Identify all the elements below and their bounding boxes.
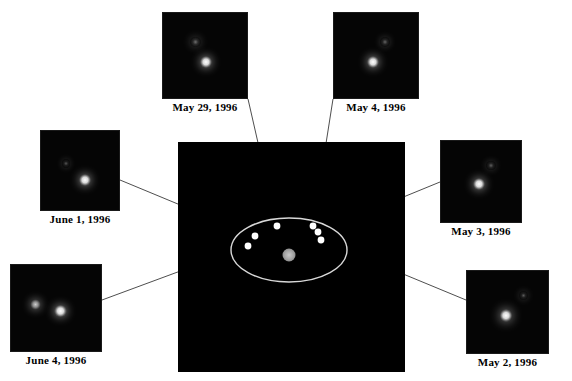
marker-may-2[interactable] xyxy=(318,237,325,244)
observation-panel-may-2-1996[interactable]: May 2, 1996 xyxy=(466,270,549,372)
observation-panel-may-3-1996[interactable]: May 3, 1996 xyxy=(440,140,522,241)
panel-caption-may-29-1996: May 29, 1996 xyxy=(172,101,237,113)
star-primary-june-4-1996 xyxy=(54,305,66,317)
panel-caption-may-4-1996: May 4, 1996 xyxy=(346,101,405,113)
panel-caption-june-4-1996: June 4, 1996 xyxy=(26,354,87,366)
marker-may-29[interactable] xyxy=(274,223,281,230)
panel-caption-may-3-1996: May 3, 1996 xyxy=(451,225,510,237)
panel-caption-may-2-1996: May 2, 1996 xyxy=(478,356,537,368)
observation-panel-may-29-1996[interactable]: May 29, 1996 xyxy=(162,12,248,117)
star-primary-may-4-1996 xyxy=(367,56,379,68)
star-companion-june-4-1996 xyxy=(30,299,41,310)
observation-image-may-29-1996[interactable] xyxy=(162,12,248,99)
observation-image-june-1-1996[interactable] xyxy=(40,130,120,211)
observation-panel-may-4-1996[interactable]: May 4, 1996 xyxy=(333,12,419,117)
observation-image-may-2-1996[interactable] xyxy=(466,270,549,354)
star-primary-june-1-1996 xyxy=(79,174,91,186)
star-companion-june-1-1996 xyxy=(62,159,70,167)
marker-may-3[interactable] xyxy=(315,229,322,236)
star-primary-may-2-1996 xyxy=(500,309,513,322)
star-companion-may-4-1996 xyxy=(380,37,390,47)
star-companion-may-2-1996 xyxy=(519,291,528,300)
observation-image-may-4-1996[interactable] xyxy=(333,12,419,99)
star-primary-may-29-1996 xyxy=(200,56,212,68)
observation-panel-june-1-1996[interactable]: June 1, 1996 xyxy=(40,130,120,229)
figure-canvas: May 29, 1996May 4, 1996June 1, 1996May 3… xyxy=(0,0,572,381)
observation-image-may-3-1996[interactable] xyxy=(440,140,522,223)
star-primary-may-3-1996 xyxy=(473,178,485,190)
star-companion-may-29-1996 xyxy=(190,37,200,47)
central-body xyxy=(283,249,296,262)
marker-june-1[interactable] xyxy=(252,233,259,240)
observation-panel-june-4-1996[interactable]: June 4, 1996 xyxy=(10,264,102,370)
observation-image-june-4-1996[interactable] xyxy=(10,264,102,352)
marker-june-4[interactable] xyxy=(245,243,252,250)
star-companion-may-3-1996 xyxy=(486,161,495,170)
panel-caption-june-1-1996: June 1, 1996 xyxy=(50,213,111,225)
marker-may-4[interactable] xyxy=(310,223,317,230)
